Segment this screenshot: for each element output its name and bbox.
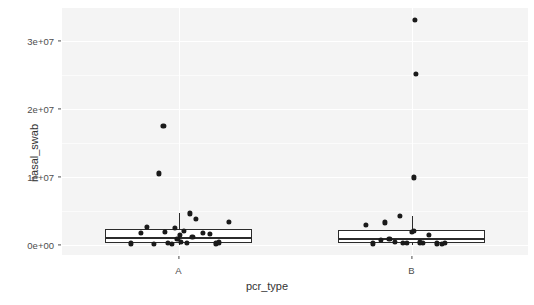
- data-point: [193, 216, 198, 221]
- data-point: [156, 171, 161, 176]
- y-axis-label-wrapper: nasal_swab: [0, 0, 20, 305]
- x-axis-tick-mark: [178, 256, 179, 259]
- data-point: [169, 242, 174, 247]
- x-axis-tick-mark: [411, 256, 412, 259]
- y-gridline-minor: [62, 75, 528, 76]
- y-gridline-major: [62, 177, 528, 178]
- whisker-upper: [179, 213, 180, 229]
- data-point: [226, 219, 231, 224]
- data-point: [412, 18, 417, 23]
- y-axis-tick-mark: [58, 244, 61, 245]
- y-axis-tick-mark: [58, 40, 61, 41]
- y-axis-tick-label: 3e+07: [27, 35, 54, 46]
- x-axis-tick-label: B: [408, 265, 414, 276]
- data-point: [382, 220, 387, 225]
- y-axis-tick-label: 0e+00: [27, 239, 54, 250]
- x-axis-label: pcr_type: [0, 280, 534, 292]
- data-point: [188, 211, 193, 216]
- data-point: [161, 123, 166, 128]
- chart-root: nasal_swab pcr_type 0e+001e+072e+073e+07…: [0, 0, 534, 305]
- data-point: [411, 175, 416, 180]
- y-gridline-minor: [62, 211, 528, 212]
- data-point: [414, 71, 419, 76]
- whisker-lower: [412, 243, 413, 244]
- y-axis-tick-label: 1e+07: [27, 171, 54, 182]
- boxplot-median: [338, 238, 485, 240]
- y-axis-tick-label: 2e+07: [27, 103, 54, 114]
- data-point: [397, 214, 402, 219]
- y-axis-tick-mark: [58, 108, 61, 109]
- y-gridline-major: [62, 109, 528, 110]
- y-axis-tick-mark: [58, 176, 61, 177]
- y-gridline-minor: [62, 143, 528, 144]
- y-axis-label: nasal_swab: [28, 73, 40, 233]
- data-point: [363, 222, 368, 227]
- y-gridline-major: [62, 41, 528, 42]
- plot-panel: [62, 8, 528, 255]
- x-axis-tick-label: A: [175, 265, 181, 276]
